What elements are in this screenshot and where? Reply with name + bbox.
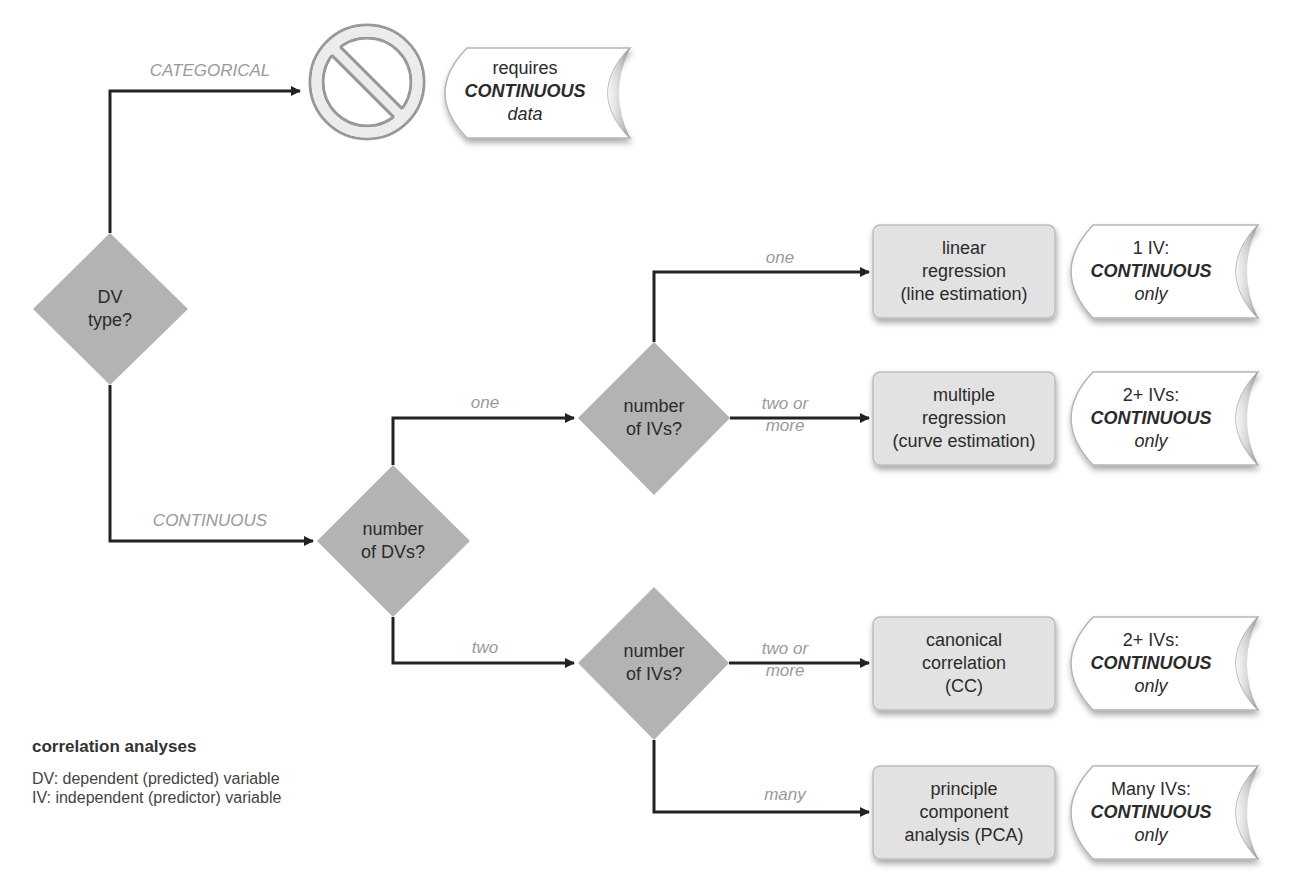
legend: correlation analyses DV: dependent (pred… (32, 737, 412, 807)
branch-label-ivs-two-or-more-lower: two or more (745, 638, 825, 682)
note-line: data (450, 103, 600, 126)
branch-label-dvs-two: two (445, 637, 525, 659)
outcome-boxes (873, 225, 1055, 859)
label-line: number (599, 640, 709, 663)
note-line: requires (450, 57, 600, 80)
branch-label-categorical: CATEGORICAL (125, 60, 295, 82)
note-line: 2+ IVs: (1076, 629, 1226, 652)
note-line: only (1076, 283, 1226, 306)
note-linear-regression-label: 1 IV: CONTINUOUS only (1076, 237, 1226, 306)
legend-title: correlation analyses (32, 737, 412, 757)
label-line: regression (873, 260, 1055, 283)
legend-line-dv: DV: dependent (predicted) variable (32, 769, 412, 788)
decision-dv-type-label: DV type? (60, 286, 160, 332)
box-linear-regression-label: linear regression (line estimation) (873, 237, 1055, 306)
prohibited-icon (310, 25, 424, 139)
connector-ivs-one (654, 272, 869, 342)
branch-label-dvs-one: one (445, 392, 525, 414)
note-line: CONTINUOUS (1076, 407, 1226, 430)
label-line: (CC) (873, 675, 1055, 698)
note-line: Many IVs: (1076, 778, 1226, 801)
decision-number-of-dvs-label: number of DVs? (338, 518, 448, 564)
branch-label-line: more (745, 415, 825, 437)
label-line: (line estimation) (873, 283, 1055, 306)
label-line: multiple (873, 384, 1055, 407)
decision-number-of-ivs-lower-label: number of IVs? (599, 640, 709, 686)
note-line: only (1076, 430, 1226, 453)
note-line: 1 IV: (1076, 237, 1226, 260)
label-line: correlation (873, 652, 1055, 675)
note-line: CONTINUOUS (1076, 801, 1226, 824)
label-line: number (599, 395, 709, 418)
branch-label-continuous: CONTINUOUS (125, 510, 295, 532)
note-line: only (1076, 824, 1226, 847)
box-canonical-correlation-label: canonical correlation (CC) (873, 629, 1055, 698)
label-line: canonical (873, 629, 1055, 652)
branch-label-line: two or (745, 393, 825, 415)
label-line: number (338, 518, 448, 541)
note-pca-label: Many IVs: CONTINUOUS only (1076, 778, 1226, 847)
label-line: principle (873, 778, 1055, 801)
label-line: of IVs? (599, 663, 709, 686)
note-shapes (445, 48, 1258, 859)
label-line: (curve estimation) (873, 430, 1055, 453)
note-line: 2+ IVs: (1076, 384, 1226, 407)
connector-categorical (110, 91, 300, 233)
connectors (110, 91, 869, 812)
label-line: regression (873, 407, 1055, 430)
note-canonical-correlation-label: 2+ IVs: CONTINUOUS only (1076, 629, 1226, 698)
note-line: only (1076, 675, 1226, 698)
branch-label-ivs-two-or-more-upper: two or more (745, 393, 825, 437)
label-line: type? (60, 309, 160, 332)
label-line: DV (60, 286, 160, 309)
connector-dvs-one (393, 418, 574, 465)
label-line: component (873, 801, 1055, 824)
note-line: CONTINUOUS (1076, 260, 1226, 283)
branch-label-ivs-many: many (745, 784, 825, 806)
label-line: analysis (PCA) (873, 824, 1055, 847)
branch-label-line: more (745, 660, 825, 682)
label-line: of IVs? (599, 418, 709, 441)
note-line: CONTINUOUS (1076, 652, 1226, 675)
label-line: linear (873, 237, 1055, 260)
box-multiple-regression-label: multiple regression (curve estimation) (873, 384, 1055, 453)
label-line: of DVs? (338, 541, 448, 564)
note-requires-continuous-label: requires CONTINUOUS data (450, 57, 600, 126)
branch-label-ivs-one: one (740, 247, 820, 269)
legend-line-iv: IV: independent (predictor) variable (32, 788, 412, 807)
box-pca-label: principle component analysis (PCA) (873, 778, 1055, 847)
note-multiple-regression-label: 2+ IVs: CONTINUOUS only (1076, 384, 1226, 453)
decision-number-of-ivs-upper-label: number of IVs? (599, 395, 709, 441)
note-line: CONTINUOUS (450, 80, 600, 103)
branch-label-line: two or (745, 638, 825, 660)
